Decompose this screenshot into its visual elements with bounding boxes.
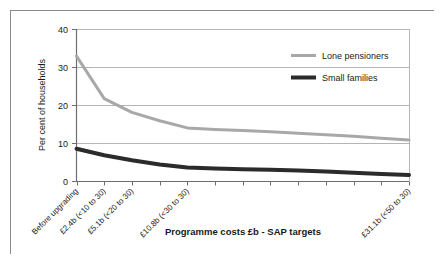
x-axis-title: Programme costs £b - SAP targets [165,226,321,237]
y-tick-label-30: 30 [58,63,68,73]
line-chart: 40 30 20 10 0 Per cent of households Bef… [11,11,435,255]
y-tick-label-10: 10 [58,139,68,149]
figure-frame: 40 30 20 10 0 Per cent of households Bef… [10,10,434,254]
y-tick-label-20: 20 [58,101,68,111]
legend-label-small-families: Small families [322,73,378,83]
y-axis-title: Per cent of households [37,58,47,151]
legend-label-lone-pensioners: Lone pensioners [322,51,389,61]
y-tick-label-0: 0 [63,177,68,187]
y-tick-label-40: 40 [58,25,68,35]
